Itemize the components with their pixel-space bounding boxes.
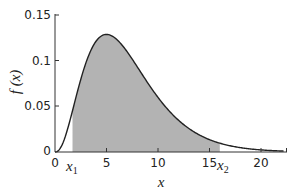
y-tick-label: 0.05 <box>24 99 51 113</box>
y-ticks <box>55 15 59 106</box>
x-tick-label: 15 <box>202 156 217 170</box>
y-axis-label: f (x) <box>7 70 24 95</box>
x1-label: x1 <box>65 158 78 176</box>
x-axis-label: x <box>157 174 165 190</box>
x2-label: x2 <box>216 157 229 175</box>
chart: 0.15 0.1 0.05 0 0 5 10 15 20 x1 x2 x f (… <box>0 0 293 193</box>
x-tick-label: 5 <box>103 156 111 170</box>
y-tick-label: 0.1 <box>32 54 51 68</box>
x-tick-label: 0 <box>51 156 59 170</box>
y-tick-label: 0 <box>43 144 51 158</box>
y-tick-label: 0.15 <box>24 8 51 22</box>
x-tick-label: 20 <box>253 156 268 170</box>
x-tick-label: 10 <box>150 156 165 170</box>
